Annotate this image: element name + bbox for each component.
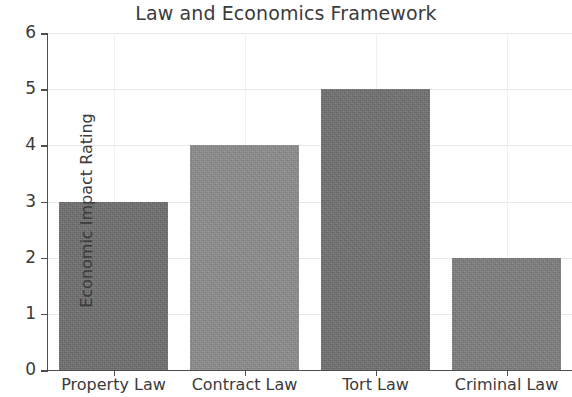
bar-texture	[321, 89, 430, 370]
y-tick-mark	[41, 33, 48, 35]
y-tick-mark	[41, 258, 48, 260]
bar	[452, 258, 561, 370]
x-tick-label: Criminal Law	[441, 377, 572, 393]
gridline-horizontal	[48, 145, 572, 146]
gridline-horizontal	[48, 89, 572, 90]
y-tick-mark	[41, 314, 48, 316]
y-tick-label: 4	[0, 136, 36, 153]
bar-texture	[190, 145, 299, 370]
bar-texture	[452, 258, 561, 370]
y-tick-mark	[41, 202, 48, 204]
x-tick-label: Tort Law	[310, 377, 441, 393]
bar-texture	[59, 202, 168, 371]
chart-title: Law and Economics Framework	[0, 2, 572, 24]
gridline-horizontal	[48, 33, 572, 34]
y-tick-label: 1	[0, 305, 36, 322]
y-tick-label: 5	[0, 80, 36, 97]
bar	[321, 89, 430, 370]
y-tick-mark	[41, 89, 48, 91]
y-axis-label: Economic Impact Rating	[77, 81, 96, 341]
bar	[190, 145, 299, 370]
bar	[59, 202, 168, 371]
x-tick-label: Property Law	[48, 377, 179, 393]
x-tick-label: Contract Law	[179, 377, 310, 393]
y-tick-label: 3	[0, 193, 36, 210]
y-tick-label: 0	[0, 361, 36, 378]
y-tick-label: 6	[0, 24, 36, 41]
plot-area: Economic Impact Rating	[48, 33, 572, 370]
y-tick-label: 2	[0, 249, 36, 266]
y-tick-mark	[41, 370, 48, 372]
bar-chart-figure: Law and Economics Framework Economic Imp…	[0, 0, 572, 397]
y-tick-mark	[41, 145, 48, 147]
